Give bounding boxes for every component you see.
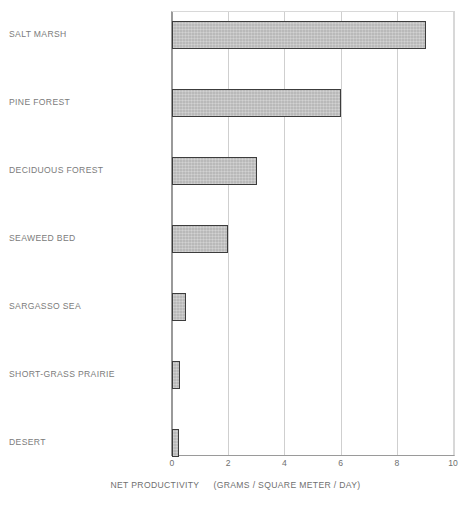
gridline-4: [284, 12, 285, 455]
x-tick-4: 4: [282, 458, 287, 468]
x-axis-title-part1: NET PRODUCTIVITY: [110, 480, 199, 490]
x-tick-0: 0: [170, 458, 175, 468]
gridline-8: [397, 12, 398, 455]
bar-seaweed-bed: [172, 225, 228, 253]
bar-salt-marsh: [172, 21, 426, 49]
category-label-salt-marsh: SALT MARSH: [9, 29, 67, 39]
category-label-desert: DESERT: [9, 437, 46, 447]
x-axis-title: NET PRODUCTIVITY(GRAMS / SQUARE METER / …: [0, 480, 471, 490]
bar-pine-forest: [172, 89, 341, 117]
category-axis-labels: SALT MARSH PINE FOREST DECIDUOUS FOREST …: [0, 11, 165, 456]
x-tick-10: 10: [448, 458, 458, 468]
category-label-seaweed-bed: SEAWEED BED: [9, 233, 76, 243]
x-tick-8: 8: [394, 458, 399, 468]
x-tick-6: 6: [338, 458, 343, 468]
bar-desert: [172, 429, 179, 457]
category-label-sargasso-sea: SARGASSO SEA: [9, 301, 81, 311]
category-label-deciduous-forest: DECIDUOUS FOREST: [9, 165, 103, 175]
gridline-10: [453, 12, 454, 455]
bar-sargasso-sea: [172, 293, 186, 321]
bar-chart: SALT MARSH PINE FOREST DECIDUOUS FOREST …: [0, 0, 471, 507]
x-tick-2: 2: [226, 458, 231, 468]
bar-short-grass-prairie: [172, 361, 180, 389]
bar-deciduous-forest: [172, 157, 257, 185]
category-label-short-grass-prairie: SHORT-GRASS PRAIRIE: [9, 369, 115, 379]
gridline-6: [341, 12, 342, 455]
x-axis-tick-labels: 0 2 4 6 8 10: [171, 458, 455, 472]
plot-area: [171, 11, 455, 456]
x-axis-title-part2: (GRAMS / SQUARE METER / DAY): [213, 480, 360, 490]
category-label-pine-forest: PINE FOREST: [9, 97, 70, 107]
